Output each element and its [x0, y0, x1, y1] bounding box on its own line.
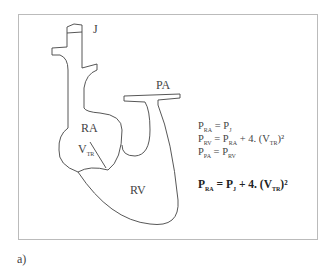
equation-3: PPA = PRV: [198, 146, 236, 159]
label-vtr: VTR: [78, 142, 94, 157]
label-rv: RV: [130, 183, 146, 198]
label-ra: RA: [81, 121, 98, 136]
label-pa: PA: [156, 78, 170, 93]
equation-2: PRV = PRA + 4. (VTR)²: [198, 133, 284, 146]
result-equation: PRA = PJ + 4. (VTR)²: [198, 178, 288, 192]
label-j: J: [93, 22, 98, 37]
equation-1: PRA = PJ: [198, 120, 232, 133]
figure-caption: a): [17, 252, 26, 267]
